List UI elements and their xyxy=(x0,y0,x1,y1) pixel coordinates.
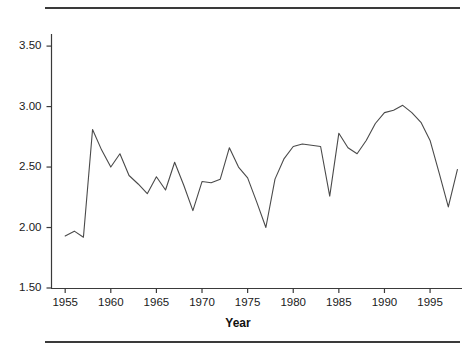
x-axis-tick-label: 1980 xyxy=(273,297,313,309)
x-axis-tick-label: 1995 xyxy=(410,297,450,309)
y-axis-tick-label: 2.50 xyxy=(6,161,42,173)
x-axis-tick-label: 1960 xyxy=(91,297,131,309)
data-series-line xyxy=(65,105,457,237)
y-axis-tick-label: 1.50 xyxy=(6,282,42,294)
y-axis-tick-label: 2.00 xyxy=(6,222,42,234)
y-axis-ticks xyxy=(47,46,52,288)
chart-figure: 1.502.002.503.003.50 1955196019651970197… xyxy=(0,0,476,355)
y-axis-tick-label: 3.00 xyxy=(6,101,42,113)
x-axis-title: Year xyxy=(0,316,476,330)
x-axis-tick-label: 1970 xyxy=(182,297,222,309)
x-axis-tick-label: 1975 xyxy=(228,297,268,309)
x-axis-tick-label: 1990 xyxy=(364,297,404,309)
x-axis-tick-label: 1985 xyxy=(319,297,359,309)
axes xyxy=(51,34,462,289)
x-axis-tick-label: 1965 xyxy=(136,297,176,309)
x-axis-tick-label: 1955 xyxy=(45,297,85,309)
y-axis-tick-label: 3.50 xyxy=(6,40,42,52)
